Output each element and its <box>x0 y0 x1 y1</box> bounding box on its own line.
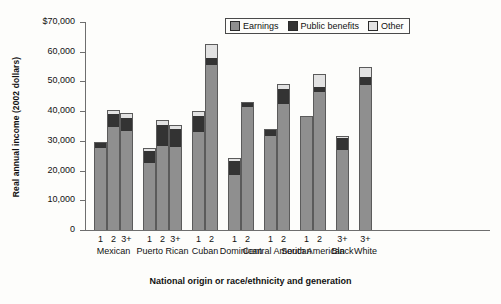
bar-segment-public-benefits <box>156 125 169 146</box>
y-tick-mark <box>80 52 86 53</box>
bar-segment-earnings <box>107 127 120 230</box>
generation-tick-label: 2 <box>202 234 222 244</box>
bar-stack <box>120 113 133 230</box>
y-tick-label: 10,000 <box>15 194 75 204</box>
y-tick-label: 20,000 <box>15 165 75 175</box>
bar-segment-earnings <box>359 85 372 230</box>
y-tick-label: 60,000 <box>15 46 75 56</box>
bar-segment-public-benefits <box>277 89 290 103</box>
bar-stack <box>156 120 169 230</box>
bar-stack <box>359 67 372 230</box>
y-tick-mark <box>80 141 86 142</box>
bar-segment-earnings <box>205 65 218 230</box>
bar-segment-earnings <box>143 163 156 230</box>
generation-tick-label: 3+ <box>166 234 186 244</box>
bar-segment-public-benefits <box>143 151 156 164</box>
y-tick-mark <box>80 22 86 23</box>
generation-tick-label: 3+ <box>333 234 353 244</box>
bar-segment-earnings <box>300 116 313 230</box>
generation-tick-label: 2 <box>238 234 258 244</box>
bar-stack <box>313 74 326 230</box>
bar-stack <box>300 116 313 230</box>
generation-tick-label: 3+ <box>356 234 376 244</box>
plot-area: 010,00020,00030,00040,00050,00060,000$70… <box>86 22 490 230</box>
y-tick-label: 0 <box>15 224 75 234</box>
bar-segment-other <box>359 67 372 77</box>
bar-segment-other <box>205 44 218 57</box>
bar-segment-earnings <box>336 150 349 230</box>
bar-segment-earnings <box>169 147 182 230</box>
y-tick-label: 30,000 <box>15 135 75 145</box>
bar-segment-public-benefits <box>359 77 372 85</box>
bar-segment-earnings <box>264 136 277 230</box>
bar-segment-earnings <box>313 92 326 230</box>
bar-stack <box>205 44 218 230</box>
y-tick-label: 40,000 <box>15 105 75 115</box>
group-tick-label: White <box>328 246 404 257</box>
y-tick-mark <box>80 230 86 231</box>
y-tick-mark <box>80 171 86 172</box>
generation-tick-label: 2 <box>274 234 294 244</box>
bar-segment-earnings <box>120 131 133 230</box>
y-tick-label: $70,000 <box>15 16 75 26</box>
bar-segment-public-benefits <box>228 161 241 174</box>
bar-stack <box>336 136 349 230</box>
y-tick-label: 50,000 <box>15 75 75 85</box>
x-axis-line <box>85 230 490 231</box>
bar-segment-public-benefits <box>205 58 218 65</box>
bar-stack <box>107 110 120 230</box>
bar-segment-public-benefits <box>107 114 120 126</box>
stacked-bar-chart: Earnings Public benefits Other Real annu… <box>0 0 501 304</box>
x-axis-title: National origin or race/ethnicity and ge… <box>0 276 501 286</box>
bar-stack <box>264 129 277 230</box>
bar-segment-public-benefits <box>120 118 133 132</box>
generation-tick-label: 2 <box>310 234 330 244</box>
bar-stack <box>192 111 205 230</box>
bar-segment-earnings <box>277 104 290 230</box>
bar-stack <box>169 125 182 230</box>
y-tick-mark <box>80 200 86 201</box>
bar-segment-earnings <box>156 146 169 230</box>
generation-tick-label: 3+ <box>117 234 137 244</box>
bar-stack <box>94 142 107 230</box>
bar-stack <box>277 84 290 230</box>
y-tick-mark <box>80 111 86 112</box>
bar-stack <box>143 148 156 230</box>
bar-stack <box>241 102 254 230</box>
bar-segment-earnings <box>192 132 205 230</box>
bar-segment-earnings <box>241 107 254 230</box>
bar-segment-public-benefits <box>169 129 182 147</box>
bar-segment-earnings <box>94 148 107 230</box>
bar-segment-public-benefits <box>336 138 349 150</box>
y-tick-mark <box>80 81 86 82</box>
bar-stack <box>228 158 241 230</box>
bar-segment-other <box>313 74 326 87</box>
bar-segment-earnings <box>228 175 241 230</box>
bar-segment-public-benefits <box>192 116 205 132</box>
